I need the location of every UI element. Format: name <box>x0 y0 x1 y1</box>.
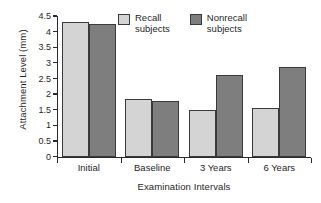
bar <box>279 67 306 157</box>
y-axis-tick-label: 0 <box>46 152 51 162</box>
bar <box>62 22 89 156</box>
y-axis-tick: 3 <box>23 58 57 68</box>
y-axis-tick: 1 <box>23 120 57 130</box>
y-axis-tick-label: 2 <box>46 89 51 99</box>
legend-swatch <box>190 14 202 25</box>
y-axis-tick-mark <box>53 156 57 157</box>
y-axis-tick-mark <box>53 140 57 141</box>
y-axis-tick: 2 <box>23 89 57 99</box>
y-axis-tick: 1.5 <box>23 105 57 115</box>
legend-swatch <box>118 14 130 25</box>
y-axis-tick-mark <box>53 93 57 94</box>
x-axis-title: Examination Intervals <box>57 181 311 192</box>
y-axis-tick: 3.5 <box>23 42 57 52</box>
bar <box>89 24 116 157</box>
y-axis-tick: 4.5 <box>23 11 57 21</box>
legend-label: Nonrecall subjects <box>207 13 247 34</box>
y-axis-tick-label: 3 <box>46 58 51 68</box>
bar <box>152 101 179 156</box>
legend-entry: Nonrecall subjects <box>190 13 247 34</box>
y-axis-tick-mark <box>53 109 57 110</box>
bar <box>189 110 216 156</box>
y-axis-tick-mark <box>53 62 57 63</box>
y-axis-tick-mark <box>53 15 57 16</box>
y-axis-tick-label: 1 <box>46 120 51 130</box>
y-axis-tick-label: 2.5 <box>38 74 51 84</box>
y-axis-tick: 4 <box>23 27 57 37</box>
legend-label: Recall subjects <box>135 13 170 34</box>
y-axis-spine <box>57 16 58 158</box>
y-axis-tick: 0.5 <box>23 136 57 146</box>
y-axis-tick-label: 4.5 <box>38 11 51 21</box>
bar-chart-figure: Attachment Level (mm) 00.511.522.533.544… <box>0 0 321 203</box>
y-axis-tick-label: 0.5 <box>38 136 51 146</box>
bar <box>125 99 152 157</box>
plot-area: 00.511.522.533.544.5 <box>57 16 311 158</box>
bar <box>216 75 243 156</box>
bar <box>252 108 279 156</box>
y-axis-tick-mark <box>53 125 57 126</box>
y-axis-tick-label: 4 <box>46 27 51 37</box>
y-axis-tick-mark <box>53 47 57 48</box>
y-axis-tick-mark <box>53 78 57 79</box>
y-axis-tick-label: 1.5 <box>38 105 51 115</box>
y-axis-tick-mark <box>53 31 57 32</box>
chart-legend: Recall subjectsNonrecall subjects <box>118 13 247 34</box>
y-axis-tick: 2.5 <box>23 74 57 84</box>
x-axis-tick-label: 6 Years <box>239 162 319 173</box>
y-axis-tick: 0 <box>23 152 57 162</box>
legend-entry: Recall subjects <box>118 13 170 34</box>
y-axis-tick-label: 3.5 <box>38 42 51 52</box>
